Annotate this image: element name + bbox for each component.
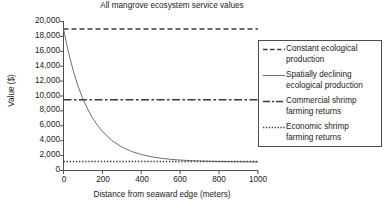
- legend-entry-commercial-shrimp-farming-returns: Commercial shrimpfarming returns: [262, 96, 380, 117]
- legend-label-line2: ecological production: [286, 81, 363, 90]
- legend-label-line2: production: [286, 55, 324, 64]
- legend-sample-dotted-icon: [262, 122, 286, 133]
- legend-sample-solid-icon: [262, 70, 286, 81]
- legend-label-line1: Commercial shrimp: [286, 96, 357, 105]
- legend-label: Spatially decliningecological production: [286, 70, 363, 91]
- chart-figure: All mangrove ecosystem service values Va…: [0, 0, 389, 208]
- legend-label-line1: Economic shrimp: [286, 122, 349, 131]
- legend-entry-spatially-declining-ecological-production: Spatially decliningecological production: [262, 70, 380, 91]
- series-line: [64, 29, 259, 162]
- x-axis-ticks: [64, 171, 258, 175]
- y-axis-ticks: [60, 22, 64, 171]
- chart-legend: Constant ecologicalproduction Spatially …: [258, 40, 382, 147]
- legend-label: Commercial shrimpfarming returns: [286, 96, 357, 117]
- data-series-layer: [64, 29, 259, 162]
- legend-label-line2: farming returns: [286, 107, 341, 116]
- legend-sample-dashdot-icon: [262, 96, 286, 107]
- legend-entry-economic-shrimp-farming-returns: Economic shrimpfarming returns: [262, 122, 380, 143]
- legend-label: Constant ecologicalproduction: [286, 44, 357, 65]
- legend-label-line2: farming returns: [286, 133, 341, 142]
- legend-entry-constant-ecological-production: Constant ecologicalproduction: [262, 44, 380, 65]
- legend-label: Economic shrimpfarming returns: [286, 122, 349, 143]
- legend-sample-dashed-icon: [262, 44, 286, 55]
- legend-label-line1: Constant ecological: [286, 44, 357, 53]
- legend-label-line1: Spatially declining: [286, 70, 352, 79]
